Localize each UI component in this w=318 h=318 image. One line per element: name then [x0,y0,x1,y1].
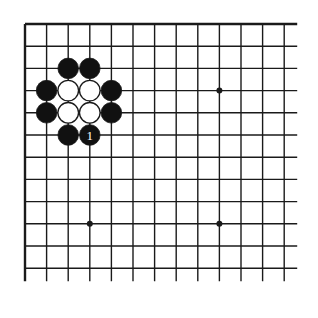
black-stone [101,80,122,101]
black-stone [101,103,122,124]
black-stone [36,80,57,101]
white-stone [58,103,79,124]
star-point [87,221,93,227]
star-point [216,88,222,94]
black-stone [58,125,79,146]
white-stone [58,80,79,101]
stones: 1 [36,58,121,145]
black-stone [58,58,79,79]
white-stone [80,103,101,124]
black-stone: 1 [80,125,101,146]
white-stone [80,80,101,101]
black-stone [80,58,101,79]
move-number-label: 1 [87,128,94,143]
go-board: 1 [0,0,318,318]
black-stone [36,103,57,124]
star-point [216,221,222,227]
